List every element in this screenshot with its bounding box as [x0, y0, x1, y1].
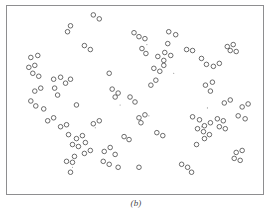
data-point	[202, 136, 207, 141]
data-point	[234, 49, 239, 54]
dust-speck	[207, 107, 208, 108]
data-point	[228, 98, 233, 103]
data-point	[51, 77, 56, 82]
data-point	[83, 140, 88, 145]
data-point	[58, 75, 63, 80]
data-point	[161, 58, 166, 63]
dust-speck	[72, 167, 73, 168]
data-point	[246, 102, 251, 107]
data-point	[217, 61, 222, 66]
scatter-plot-canvas	[7, 6, 263, 194]
data-point	[211, 64, 216, 69]
data-point	[222, 101, 227, 106]
data-point	[201, 129, 206, 134]
data-point	[149, 83, 154, 88]
data-point	[195, 126, 200, 131]
plot-frame	[6, 5, 264, 195]
data-point	[185, 165, 190, 170]
dust-speck	[120, 104, 121, 105]
data-point	[113, 152, 118, 157]
data-point	[64, 159, 69, 164]
data-point	[161, 63, 166, 68]
dust-speck	[148, 115, 149, 116]
data-point	[137, 116, 142, 121]
data-point	[232, 156, 237, 161]
data-point	[165, 41, 170, 46]
data-point	[127, 137, 132, 142]
data-point	[80, 133, 85, 138]
data-point	[55, 93, 60, 98]
data-point	[190, 48, 195, 53]
data-point	[217, 124, 222, 129]
data-point	[58, 124, 63, 129]
data-point	[65, 29, 70, 34]
data-point	[144, 51, 149, 56]
data-point	[133, 100, 138, 105]
data-point	[41, 107, 46, 112]
data-point	[190, 115, 195, 120]
dust-speck	[146, 44, 147, 45]
data-point	[31, 71, 36, 76]
data-point	[221, 119, 226, 124]
data-point	[113, 95, 118, 100]
data-point	[197, 118, 202, 123]
data-point	[223, 126, 228, 131]
figure-container: (b)	[0, 0, 272, 219]
data-point	[35, 53, 40, 58]
data-point	[88, 148, 93, 153]
data-point	[202, 123, 207, 128]
data-point	[70, 142, 75, 147]
data-point	[199, 56, 204, 61]
data-point	[51, 116, 56, 121]
data-point	[240, 105, 245, 110]
data-point	[194, 142, 199, 147]
dust-speck	[173, 73, 174, 74]
data-point	[63, 81, 68, 86]
data-point	[179, 162, 184, 167]
data-point	[204, 62, 209, 67]
data-point	[166, 29, 171, 34]
data-point	[52, 86, 57, 91]
data-point	[66, 132, 71, 137]
data-point	[132, 30, 137, 35]
data-point	[33, 63, 38, 68]
data-point	[168, 53, 173, 58]
data-point	[74, 136, 79, 141]
data-point	[36, 74, 41, 79]
data-point	[29, 55, 34, 60]
data-point	[143, 113, 148, 118]
dust-speck	[201, 126, 202, 127]
data-point	[38, 86, 43, 91]
data-point	[140, 46, 145, 51]
data-point	[228, 48, 233, 53]
data-point	[240, 148, 245, 153]
data-point	[156, 54, 161, 59]
data-point	[72, 154, 77, 159]
data-point	[102, 149, 107, 154]
data-point	[108, 145, 113, 150]
data-point	[158, 69, 163, 74]
data-point	[68, 24, 73, 29]
data-point	[210, 80, 215, 85]
data-point	[184, 47, 189, 52]
data-point	[107, 162, 112, 167]
data-point	[82, 43, 87, 48]
data-point	[91, 121, 96, 126]
data-point	[162, 50, 167, 55]
data-point	[33, 104, 38, 109]
data-point	[234, 150, 239, 155]
data-point	[231, 42, 236, 47]
data-point	[208, 89, 213, 94]
data-point	[243, 117, 248, 122]
data-point	[236, 114, 241, 119]
data-point	[70, 160, 75, 165]
data-point	[203, 83, 208, 88]
data-point	[68, 77, 73, 82]
data-point	[74, 103, 79, 108]
data-point	[139, 120, 144, 125]
data-point	[155, 130, 160, 135]
data-point	[143, 36, 148, 41]
figure-caption: (b)	[0, 198, 272, 208]
data-point	[91, 13, 96, 18]
data-point	[116, 91, 121, 96]
